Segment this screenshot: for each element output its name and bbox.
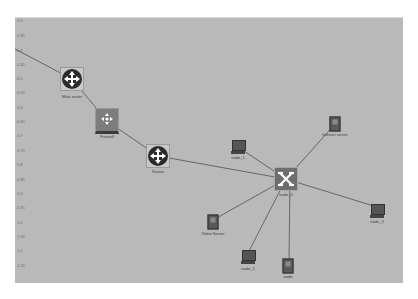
node-label: Video Server [201,232,224,236]
node-label: node_3 [370,220,383,224]
computer-icon [241,250,255,264]
computer-icon [370,204,384,218]
node-pc-1[interactable] [231,140,245,154]
node-label: node_0 [279,193,292,197]
router-icon [60,67,84,91]
node-internet-server[interactable] [330,117,341,132]
node-server[interactable] [283,259,294,274]
node-label: Router [152,170,164,174]
node-label: node_2 [241,267,254,271]
node-switch-0[interactable] [274,167,298,191]
node-label: Main router [62,95,82,99]
node-router[interactable] [146,144,170,168]
computer-icon [231,140,245,154]
router-icon [146,144,170,168]
node-pc-2[interactable] [241,250,255,264]
link-node0-node3[interactable] [286,179,377,207]
server-icon [283,259,294,274]
server-icon [208,215,219,230]
server-icon [330,117,341,132]
switch-icon [274,167,298,191]
node-label: Internet server [322,133,348,137]
firewall-icon [95,108,119,134]
link-router-node0[interactable] [158,156,286,179]
node-video-server[interactable] [208,215,219,230]
node-firewall[interactable] [95,108,119,134]
node-pc-3[interactable] [370,204,384,218]
node-label: node_1 [231,156,244,160]
network-links [0,0,418,299]
node-main-router[interactable] [60,67,84,91]
node-label: Firewall [100,135,114,139]
node-label: node [284,275,293,279]
